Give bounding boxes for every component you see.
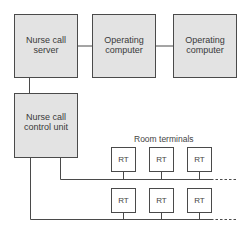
nurse-call-control-unit-label: Nurse call control unit: [18, 112, 74, 132]
operating-computer-1-label: Operating computer: [99, 35, 149, 55]
nurse-call-server-box: Nurse call server: [14, 14, 78, 78]
room-terminals-label: Room terminals: [134, 134, 194, 144]
room-terminal: RT: [111, 147, 136, 172]
room-terminal: RT: [187, 188, 212, 213]
room-terminal: RT: [149, 188, 174, 213]
room-terminal: RT: [187, 147, 212, 172]
operating-computer-2-label: Operating computer: [180, 35, 230, 55]
operating-computer-2-box: Operating computer: [173, 14, 237, 78]
room-terminal: RT: [149, 147, 174, 172]
operating-computer-1-box: Operating computer: [92, 14, 156, 78]
room-terminal: RT: [111, 188, 136, 213]
nurse-call-server-label: Nurse call server: [26, 35, 66, 55]
nurse-call-control-unit-box: Nurse call control unit: [14, 93, 78, 158]
